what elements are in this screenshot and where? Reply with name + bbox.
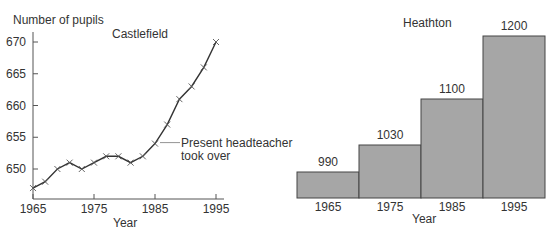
x-marker-icon bbox=[79, 166, 85, 172]
y-tick-label: 670 bbox=[6, 35, 26, 49]
y-tick-label: 665 bbox=[6, 67, 26, 81]
x-tick-label: 1975 bbox=[81, 202, 108, 216]
x-marker-icon bbox=[164, 122, 170, 128]
x-marker-icon bbox=[67, 160, 73, 166]
x-marker-icon bbox=[54, 166, 60, 172]
x-marker-icon bbox=[128, 160, 134, 166]
y-tick-label: 660 bbox=[6, 99, 26, 113]
x-tick-label: 1995 bbox=[203, 202, 230, 216]
x-marker-icon bbox=[152, 141, 158, 147]
bar-category-label: 1985 bbox=[439, 200, 466, 214]
bar-value-label: 1030 bbox=[377, 128, 404, 142]
x-tick-label: 1985 bbox=[142, 202, 169, 216]
bar-1985 bbox=[421, 99, 483, 198]
x-marker-icon bbox=[140, 153, 146, 159]
bar-1965 bbox=[297, 172, 359, 198]
annotation-headteacher: Present headteacher took over bbox=[160, 136, 292, 163]
x-marker-icon bbox=[42, 179, 48, 185]
bar-1995 bbox=[483, 36, 545, 198]
castlefield-line-chart: Number of pupils Castlefield 65065566066… bbox=[6, 13, 292, 230]
bar-category-label: 1995 bbox=[501, 200, 528, 214]
annotation-text-line1: Present headteacher bbox=[181, 136, 292, 150]
x-axis-label: Year bbox=[113, 216, 137, 230]
chart-canvas: Number of pupils Castlefield 65065566066… bbox=[0, 0, 558, 235]
bar-category-label: 1975 bbox=[377, 200, 404, 214]
bar-value-label: 990 bbox=[318, 155, 338, 169]
x-axis-ticks: 1965197519851995 bbox=[20, 194, 230, 216]
bar-value-label: 1100 bbox=[439, 82, 465, 96]
bar-1975 bbox=[359, 145, 421, 198]
y-tick-label: 650 bbox=[6, 162, 26, 176]
series-markers bbox=[30, 39, 219, 191]
bars: 9901965103019751100198512001995 bbox=[297, 19, 545, 214]
bar-category-label: 1965 bbox=[315, 200, 342, 214]
x-marker-icon bbox=[213, 39, 219, 45]
bar-value-label: 1200 bbox=[501, 19, 528, 33]
heathton-bar-chart: Heathton 9901965103019751100198512001995… bbox=[297, 16, 545, 226]
y-tick-label: 655 bbox=[6, 130, 26, 144]
chart-title-heathton: Heathton bbox=[403, 16, 452, 30]
bar-x-axis-label: Year bbox=[412, 212, 436, 226]
x-marker-icon bbox=[91, 160, 97, 166]
annotation-text-line2: took over bbox=[181, 149, 230, 163]
x-tick-label: 1965 bbox=[20, 202, 47, 216]
y-axis-label: Number of pupils bbox=[13, 13, 104, 27]
chart-title-castlefield: Castlefield bbox=[112, 27, 168, 41]
x-marker-icon bbox=[176, 96, 182, 102]
x-marker-icon bbox=[201, 64, 207, 70]
x-marker-icon bbox=[189, 83, 195, 89]
